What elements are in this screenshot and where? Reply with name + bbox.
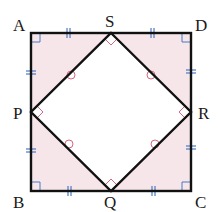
vertex-label-P: P	[13, 104, 22, 123]
vertex-label-C: C	[195, 193, 206, 212]
vertex-label-S: S	[105, 12, 114, 31]
vertex-label-D: D	[195, 16, 207, 35]
vertex-label-A: A	[13, 16, 26, 35]
square-diagram: A D C B S R Q P	[0, 0, 218, 212]
vertex-label-Q: Q	[104, 193, 116, 212]
vertex-label-R: R	[198, 104, 210, 123]
vertex-label-B: B	[13, 193, 24, 212]
